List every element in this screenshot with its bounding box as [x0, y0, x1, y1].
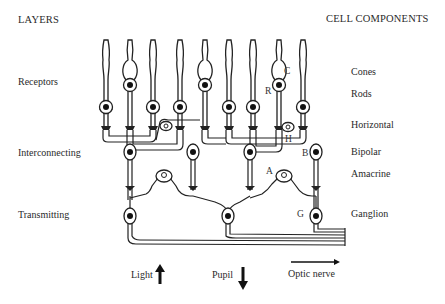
optic-nerve-label: Optic nerve	[288, 268, 335, 279]
pupil-label: Pupil	[212, 269, 233, 280]
letter-cone: C	[284, 66, 290, 76]
arrow-up-icon	[155, 264, 165, 284]
light-label: Light	[131, 269, 153, 280]
letter-rod: R	[265, 86, 271, 96]
arrow-right-icon	[291, 259, 340, 265]
letter-ganglion: G	[297, 209, 304, 219]
retina-cell-diagram	[0, 0, 445, 304]
arrow-down-icon	[238, 267, 248, 290]
letter-bipolar: B	[302, 148, 308, 158]
letter-horizontal: H	[285, 134, 292, 144]
letter-amacrine: A	[266, 166, 273, 176]
